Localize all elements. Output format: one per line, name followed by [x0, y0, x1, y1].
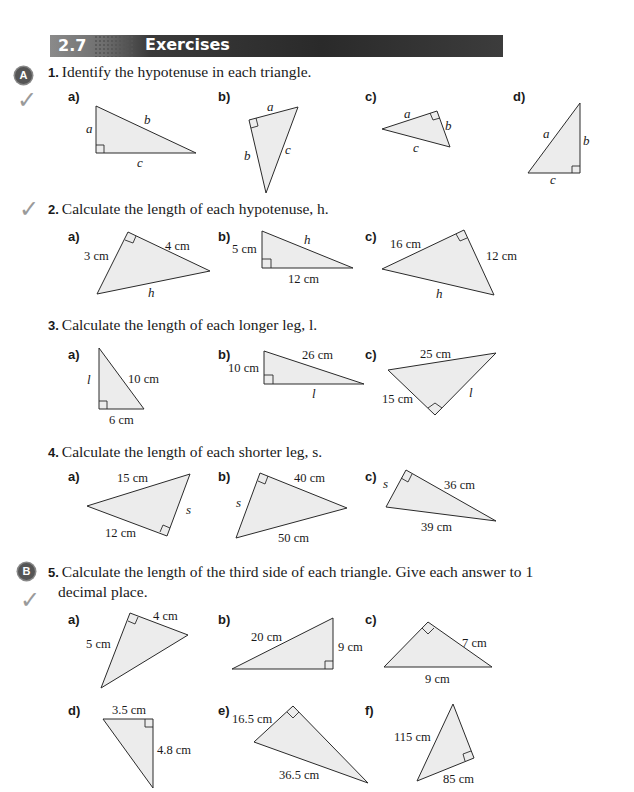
- svg-text:a: a: [86, 121, 93, 136]
- svg-text:h: h: [304, 232, 311, 247]
- svg-text:50 cm: 50 cm: [278, 531, 309, 545]
- svg-text:36 cm: 36 cm: [444, 478, 475, 492]
- svg-text:l: l: [312, 386, 316, 401]
- svg-text:40 cm: 40 cm: [294, 471, 325, 485]
- svg-text:c: c: [413, 140, 419, 155]
- q4c-triangle: s 36 cm 39 cm: [383, 470, 496, 534]
- svg-text:15 cm: 15 cm: [382, 392, 413, 406]
- svg-text:26 cm: 26 cm: [302, 348, 333, 362]
- svg-text:b: b: [583, 133, 590, 148]
- svg-text:12 cm: 12 cm: [105, 526, 136, 540]
- svg-text:b: b: [244, 148, 251, 163]
- svg-text:4 cm: 4 cm: [165, 239, 190, 253]
- q5a-triangle: 5 cm 4 cm: [86, 609, 188, 688]
- svg-text:85 cm: 85 cm: [443, 772, 474, 786]
- svg-text:7 cm: 7 cm: [462, 636, 487, 650]
- q1b-triangle: a b c: [244, 99, 298, 193]
- svg-text:4 cm: 4 cm: [153, 609, 178, 623]
- q3c-triangle: 25 cm 15 cm l: [382, 347, 496, 415]
- svg-text:c: c: [550, 172, 556, 187]
- svg-text:10 cm: 10 cm: [228, 361, 259, 375]
- svg-text:3 cm: 3 cm: [84, 249, 109, 263]
- svg-text:25 cm: 25 cm: [420, 347, 451, 361]
- svg-text:s: s: [186, 502, 191, 517]
- svg-text:b: b: [144, 112, 151, 127]
- q2b-triangle: 5 cm h 12 cm: [232, 231, 353, 286]
- svg-text:l: l: [87, 372, 91, 387]
- svg-text:c: c: [285, 142, 291, 157]
- svg-text:a: a: [267, 99, 274, 114]
- svg-text:b: b: [445, 118, 452, 133]
- q5e-triangle: 16.5 cm 36.5 cm: [232, 706, 368, 783]
- svg-text:5 cm: 5 cm: [232, 242, 257, 256]
- svg-text:6 cm: 6 cm: [109, 413, 134, 427]
- svg-text:3.5 cm: 3.5 cm: [112, 703, 146, 717]
- svg-text:10 cm: 10 cm: [128, 372, 159, 386]
- svg-text:l: l: [469, 385, 473, 400]
- svg-text:h: h: [148, 285, 155, 300]
- svg-text:16.5 cm: 16.5 cm: [232, 712, 273, 726]
- svg-text:12 cm: 12 cm: [486, 249, 517, 263]
- svg-text:20 cm: 20 cm: [251, 630, 282, 644]
- q2a-triangle: 3 cm 4 cm h: [84, 232, 210, 300]
- q4b-triangle: 40 cm s 50 cm: [236, 471, 347, 545]
- q5b-triangle: 20 cm 9 cm: [232, 618, 363, 669]
- svg-text:h: h: [436, 286, 443, 301]
- svg-text:12 cm: 12 cm: [288, 272, 319, 286]
- svg-text:c: c: [137, 155, 143, 170]
- q5f-triangle: 115 cm 85 cm: [394, 704, 474, 786]
- svg-text:9 cm: 9 cm: [338, 640, 363, 654]
- q2c-triangle: 16 cm 12 cm h: [382, 230, 517, 301]
- svg-text:9 cm: 9 cm: [425, 672, 450, 686]
- q5d-triangle: 3.5 cm 4.8 cm: [103, 703, 191, 788]
- svg-text:115 cm: 115 cm: [394, 730, 431, 744]
- q3a-triangle: l 10 cm 6 cm: [87, 348, 159, 427]
- svg-text:5 cm: 5 cm: [86, 637, 111, 651]
- svg-text:36.5 cm: 36.5 cm: [279, 768, 320, 782]
- svg-text:39 cm: 39 cm: [421, 520, 452, 534]
- svg-text:15 cm: 15 cm: [117, 471, 148, 485]
- svg-text:s: s: [236, 495, 241, 510]
- q3b-triangle: 10 cm 26 cm l: [228, 348, 364, 401]
- svg-text:a: a: [404, 106, 411, 121]
- svg-text:a: a: [543, 126, 550, 141]
- svg-text:s: s: [383, 476, 388, 491]
- svg-text:16 cm: 16 cm: [390, 237, 421, 251]
- q4a-triangle: 15 cm s 12 cm: [87, 471, 191, 540]
- triangle-figures: a b c a b c a b c a b c 3 cm 4 cm h 5 cm: [0, 0, 634, 792]
- svg-text:4.8 cm: 4.8 cm: [157, 743, 191, 757]
- q1c-triangle: a b c: [382, 106, 452, 155]
- q1d-triangle: a b c: [528, 103, 590, 187]
- q5c-triangle: 7 cm 9 cm: [384, 622, 492, 686]
- q1a-triangle: a b c: [86, 106, 196, 170]
